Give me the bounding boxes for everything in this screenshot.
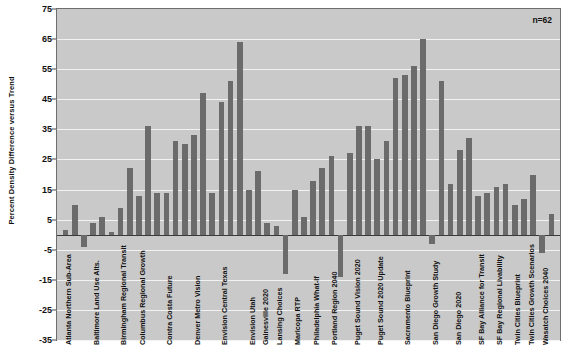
bar xyxy=(512,205,518,235)
bar xyxy=(393,78,399,234)
bar xyxy=(255,171,261,234)
y-axis-tick-label: -5 xyxy=(44,245,52,255)
bar xyxy=(145,126,151,234)
bar xyxy=(173,141,179,234)
plot-area: Atlanta Northern Sub-AreaBaltimore Land … xyxy=(56,8,561,341)
bar xyxy=(329,156,335,234)
y-axis-ticks: 756555453525155-5-15-25-35 xyxy=(26,0,56,349)
y-axis-tick-label: 35 xyxy=(42,124,52,134)
y-axis-tick-label: 45 xyxy=(42,94,52,104)
bar xyxy=(246,190,252,235)
bar xyxy=(549,214,555,235)
bar xyxy=(521,199,527,235)
y-axis-tick-label: -15 xyxy=(39,275,52,285)
bar xyxy=(301,217,307,235)
bar-series xyxy=(57,9,560,340)
y-axis-tick-label: 25 xyxy=(42,154,52,164)
bar xyxy=(99,217,105,235)
bar xyxy=(90,223,96,235)
bar xyxy=(365,126,371,234)
bar xyxy=(539,235,545,253)
bar xyxy=(154,193,160,235)
bar xyxy=(356,126,362,234)
bar xyxy=(182,144,188,234)
bar xyxy=(466,138,472,234)
bar xyxy=(457,150,463,234)
y-axis-tick-label: -35 xyxy=(39,335,52,345)
bar xyxy=(127,168,133,234)
y-axis-tick-label: 65 xyxy=(42,34,52,44)
bar xyxy=(109,232,115,235)
bar xyxy=(338,235,344,277)
y-axis-title: Percent Density Difference versus Trend xyxy=(0,0,22,300)
bar xyxy=(72,205,78,235)
bar xyxy=(219,102,225,234)
bar xyxy=(310,181,316,235)
bar xyxy=(81,235,87,247)
bar xyxy=(264,223,270,235)
bar xyxy=(384,141,390,234)
bar xyxy=(374,159,380,234)
bar xyxy=(136,196,142,235)
bar xyxy=(319,168,325,234)
bar xyxy=(484,193,490,235)
bar xyxy=(402,75,408,234)
bar xyxy=(448,184,454,235)
bar xyxy=(191,135,197,234)
y-axis-tick-label: 55 xyxy=(42,64,52,74)
bar xyxy=(63,230,69,235)
y-axis-tick-label: 75 xyxy=(42,4,52,14)
y-axis-tick-label: 15 xyxy=(42,185,52,195)
bar xyxy=(228,81,234,234)
chart-container: Percent Density Difference versus Trend … xyxy=(0,0,568,349)
bar xyxy=(530,175,536,235)
sample-size-annotation: n=62 xyxy=(532,15,552,25)
bar xyxy=(429,235,435,244)
bar xyxy=(439,81,445,234)
bar xyxy=(292,190,298,235)
gridline xyxy=(57,340,560,341)
bar xyxy=(420,39,426,235)
bar xyxy=(209,193,215,235)
bar xyxy=(237,42,243,235)
bar xyxy=(503,184,509,235)
bar xyxy=(494,187,500,235)
bar xyxy=(347,153,353,234)
bar xyxy=(475,196,481,235)
bar xyxy=(283,235,289,274)
bar xyxy=(274,226,280,235)
bar xyxy=(411,66,417,235)
bar xyxy=(164,193,170,235)
bar xyxy=(118,208,124,235)
y-axis-tick-label: -25 xyxy=(39,305,52,315)
y-axis-title-text: Percent Density Difference versus Trend xyxy=(7,76,16,224)
bar xyxy=(200,93,206,234)
